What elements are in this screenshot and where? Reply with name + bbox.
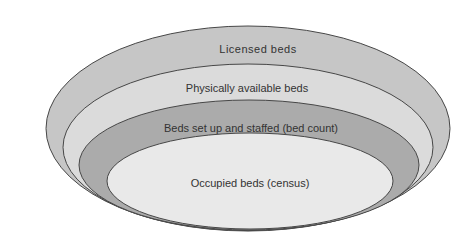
bed-capacity-diagram: Licensed beds Physically available beds … — [40, 16, 455, 235]
diagram-canvas: Licensed beds Physically available beds … — [40, 16, 455, 235]
layer-licensed-beds-label: Licensed beds — [219, 43, 296, 55]
layer-physically-available-beds-label: Physically available beds — [186, 82, 309, 94]
layer-beds-set-up-and-staffed-label: Beds set up and staffed (bed count) — [164, 122, 338, 134]
layer-occupied-beds-label: Occupied beds (census) — [191, 177, 310, 189]
